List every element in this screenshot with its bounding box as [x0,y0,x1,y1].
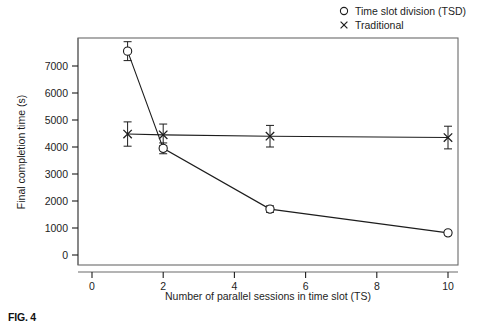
legend-label-traditional: Traditional [355,19,404,31]
y-axis-tick-label: 3000 [45,168,69,180]
legend-entry-tsd: Time slot division (TSD) [340,5,466,17]
y-axis-tick-label: 2000 [45,195,69,207]
figure-caption: FIG. 4 [8,311,36,323]
y-axis-tick-label: 7000 [45,60,69,72]
y-axis-tick-label: 5000 [45,114,69,126]
x-axis-tick-label: 10 [442,280,454,292]
data-point-circle-marker [266,205,274,213]
chart-canvas: 01000200030004000500060007000 0246810 Nu… [0,0,484,331]
y-axis-tick-label: 0 [62,249,68,261]
x-axis-tick-label: 8 [374,280,380,292]
circle-marker-icon [340,7,347,14]
y-axis-title: Final completion time (s) [15,95,27,209]
y-axis-tick-label: 6000 [45,87,69,99]
legend-entry-traditional: Traditional [341,19,404,31]
series-traditional [123,122,452,149]
legend-label-tsd: Time slot division (TSD) [355,5,466,17]
x-axis-tick-label: 0 [89,280,95,292]
chart-legend: Time slot division (TSD) Traditional [340,5,466,31]
data-point-circle-marker [444,229,452,237]
series-line [128,51,448,233]
x-axis: 0246810 [78,272,458,292]
series-time-slot-division [124,42,453,237]
y-axis-tick-label: 1000 [45,222,69,234]
y-axis: 01000200030004000500060007000 [45,38,78,265]
data-point-circle-marker [124,47,132,55]
y-axis-tick-label: 4000 [45,141,69,153]
figure-container: 01000200030004000500060007000 0246810 Nu… [0,0,484,331]
x-axis-title: Number of parallel sessions in time slot… [165,290,371,302]
data-point-circle-marker [159,144,167,152]
cross-marker-icon [341,22,348,29]
series-line [128,134,448,138]
